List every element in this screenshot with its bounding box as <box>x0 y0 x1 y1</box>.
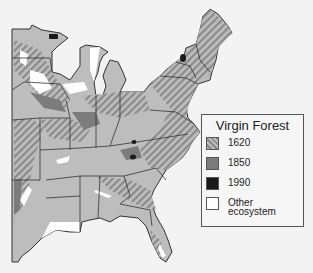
gray-swatch-icon <box>206 157 219 170</box>
hatched-swatch-icon <box>206 137 219 150</box>
legend-label: 1850 <box>228 158 250 168</box>
legend-title: Virgin Forest <box>202 118 303 133</box>
legend-label: 1990 <box>228 178 250 188</box>
black-swatch-icon <box>206 177 219 190</box>
white-swatch-icon <box>206 197 219 210</box>
legend-label: 1620 <box>228 138 250 148</box>
legend-label-line2: ecosystem <box>228 207 276 217</box>
legend: Virgin Forest 1620 1850 1990 Other ecosy… <box>201 114 304 227</box>
